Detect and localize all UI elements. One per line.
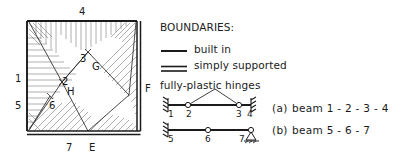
beam-b-svg xyxy=(160,119,280,149)
beam-a-hinge-2-icon xyxy=(185,102,190,107)
beam-a-hinge-3-icon xyxy=(236,102,241,107)
legend-built-in-symbol-icon xyxy=(160,45,196,57)
beam-a-caption: beam 1 - 2 - 3 - 4 xyxy=(292,102,389,114)
beam-b-hinge-6-icon xyxy=(205,127,210,132)
beam-b-node-5-label: 5 xyxy=(168,135,174,144)
figure-canvas: 4 1 5 7 E F 3 G 2 H 6 BOUNDARIES: built … xyxy=(0,0,416,161)
slab-node-3: 3 xyxy=(80,54,87,64)
beam-b-tag: (b) xyxy=(272,124,288,136)
slab-label-left-5: 5 xyxy=(15,101,22,111)
slab-label-left-1: 1 xyxy=(15,74,22,84)
beam-a-node-4-label: 4 xyxy=(247,110,253,119)
legend-built-in-label: built in xyxy=(194,44,231,55)
beam-b-diagram: 5 6 7 xyxy=(160,119,280,149)
legend-title: BOUNDARIES: xyxy=(160,22,234,33)
beam-a-diagram: 1 2 3 4 xyxy=(160,86,280,116)
beam-a-mechanism-shape xyxy=(188,89,239,105)
slab-label-right-F: F xyxy=(145,84,151,94)
beam-a-node-2-label: 2 xyxy=(186,110,192,119)
beam-b-node-6-label: 6 xyxy=(205,135,211,144)
beam-a-node-1-label: 1 xyxy=(168,110,174,119)
legend-simply-supported-label: simply supported xyxy=(194,60,287,71)
beam-a-svg xyxy=(160,86,280,116)
beam-b-caption: beam 5 - 6 - 7 xyxy=(292,124,370,136)
slab-label-bottom-E: E xyxy=(89,143,96,153)
slab-node-G: G xyxy=(92,62,100,72)
yield-line-hatching xyxy=(27,21,137,131)
slab-label-bottom-7: 7 xyxy=(66,143,73,153)
slab-svg xyxy=(0,0,170,161)
beam-a-tag: (a) xyxy=(272,102,288,114)
slab-node-H: H xyxy=(67,87,75,97)
beam-a-node-3-label: 3 xyxy=(236,110,242,119)
slab-edge-right-simply-supported xyxy=(137,21,141,131)
beam-b-node-7-label: 7 xyxy=(239,135,245,144)
slab-edge-bottom-simply-supported xyxy=(27,131,141,135)
slab-diagram: 4 1 5 7 E F 3 G 2 H 6 xyxy=(0,0,170,161)
slab-node-6: 6 xyxy=(49,101,56,111)
slab-label-top-4: 4 xyxy=(79,7,86,17)
legend-simply-supported-symbol-icon xyxy=(160,62,196,76)
